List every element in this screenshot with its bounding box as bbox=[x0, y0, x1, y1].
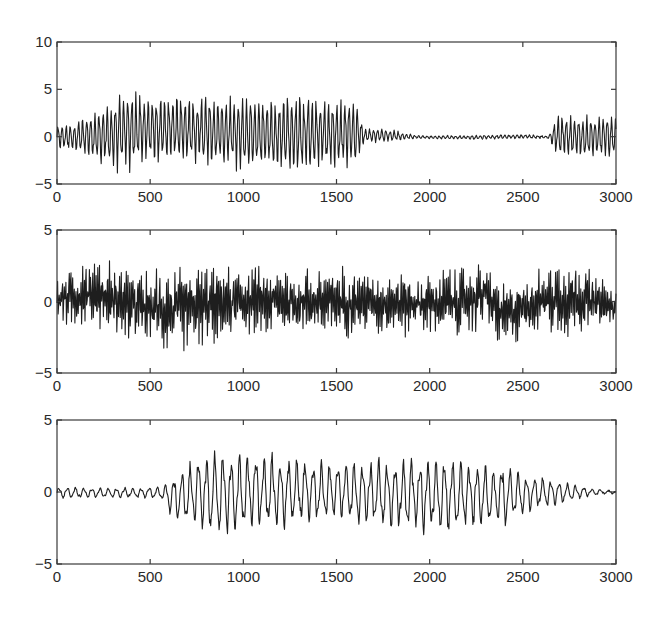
signal-trace bbox=[57, 451, 616, 535]
x-tick-label: 0 bbox=[53, 188, 61, 205]
panel-2-signal-plot: 050010001500200025003000−505 bbox=[35, 221, 633, 394]
y-tick-label: 0 bbox=[44, 128, 52, 145]
x-tick-label: 2500 bbox=[506, 377, 539, 394]
y-tick-label: 5 bbox=[44, 80, 52, 97]
y-tick-label: 5 bbox=[44, 411, 52, 428]
y-tick-label: −5 bbox=[35, 175, 52, 192]
y-tick-label: 5 bbox=[44, 221, 52, 238]
y-tick-label: 0 bbox=[44, 293, 52, 310]
x-tick-label: 3000 bbox=[599, 377, 632, 394]
panel-3-signal-plot: 050010001500200025003000−505 bbox=[35, 411, 633, 585]
x-tick-label: 2000 bbox=[413, 568, 446, 585]
y-tick-label: −5 bbox=[35, 555, 52, 572]
signal-trace bbox=[57, 92, 616, 173]
y-tick-label: 0 bbox=[44, 483, 52, 500]
x-tick-label: 500 bbox=[138, 377, 163, 394]
x-tick-label: 1000 bbox=[227, 568, 260, 585]
x-tick-label: 1000 bbox=[227, 377, 260, 394]
signal-trace bbox=[57, 261, 616, 351]
y-tick-label: 10 bbox=[35, 33, 52, 50]
x-tick-label: 0 bbox=[53, 377, 61, 394]
figure: 050010001500200025003000−50510 050010001… bbox=[0, 0, 672, 619]
x-tick-label: 500 bbox=[138, 568, 163, 585]
x-tick-label: 1500 bbox=[320, 188, 353, 205]
panel-1-signal-plot: 050010001500200025003000−50510 bbox=[35, 33, 633, 205]
x-tick-label: 0 bbox=[53, 568, 61, 585]
x-tick-label: 500 bbox=[138, 188, 163, 205]
x-tick-label: 2000 bbox=[413, 377, 446, 394]
x-tick-label: 2500 bbox=[506, 188, 539, 205]
x-tick-label: 1500 bbox=[320, 568, 353, 585]
x-tick-label: 1000 bbox=[227, 188, 260, 205]
x-tick-label: 3000 bbox=[599, 188, 632, 205]
y-tick-label: −5 bbox=[35, 364, 52, 381]
x-tick-label: 2500 bbox=[506, 568, 539, 585]
x-tick-label: 1500 bbox=[320, 377, 353, 394]
x-tick-label: 2000 bbox=[413, 188, 446, 205]
x-tick-label: 3000 bbox=[599, 568, 632, 585]
